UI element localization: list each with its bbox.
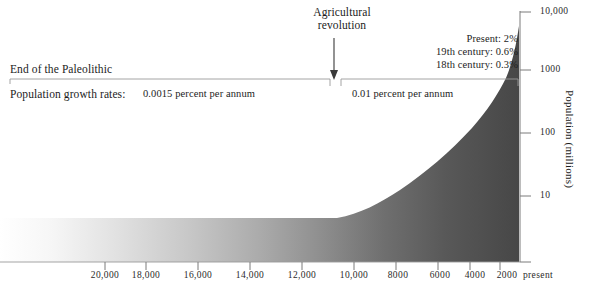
left-growth-bracket (10, 79, 330, 86)
paleolithic-growth-rate-value: 0.0015 percent per annum (143, 88, 255, 100)
x-tick-label-12000: 12,000 (272, 270, 332, 280)
y-tick-label-10: 10 (540, 190, 550, 200)
post-agricultural-growth-rate-value: 0.01 percent per annum (352, 88, 453, 100)
rate-18th-century: 18th century: 0.3% (380, 59, 518, 71)
x-tick-label-14000: 14,000 (220, 270, 280, 280)
right-growth-bracket (341, 79, 518, 86)
agricultural-revolution-label: Agricultural revolution (296, 6, 388, 32)
rate-19th-century: 19th century: 0.6% (380, 46, 518, 58)
end-of-paleolithic-label: End of the Paleolithic (10, 63, 112, 76)
agricultural-revolution-arrowhead (330, 70, 338, 80)
y-axis-title: Population (millions) (563, 90, 576, 188)
agricultural-revolution-line1: Agricultural (296, 6, 388, 19)
y-tick-label-10000: 10,000 (540, 6, 569, 16)
x-tick-label-18000: 18,000 (116, 270, 176, 280)
population-growth-rates-label: Population growth rates: (10, 88, 125, 101)
modern-growth-rates-list: Present: 2% 19th century: 0.6% 18th cent… (380, 33, 518, 72)
agricultural-revolution-line2: revolution (296, 19, 388, 32)
y-tick-label-100: 100 (540, 127, 555, 137)
rate-present: Present: 2% (380, 33, 518, 45)
y-tick-label-1000: 1000 (540, 64, 561, 74)
x-tick-label-16000: 16,000 (168, 270, 228, 280)
x-tick-label-present: present (508, 270, 568, 280)
population-growth-chart: Agricultural revolution End of the Paleo… (0, 0, 589, 296)
